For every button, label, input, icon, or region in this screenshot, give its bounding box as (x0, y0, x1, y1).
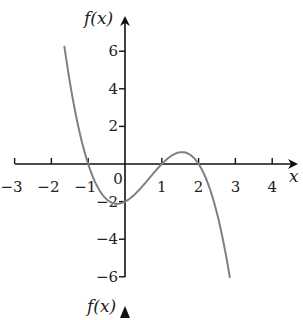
bottom-arrow-icon (120, 306, 130, 318)
x-tick-label: −2 (37, 178, 59, 196)
x-tick-label: −1 (74, 178, 96, 196)
x-tick-label: 1 (157, 178, 167, 196)
x-tick-label: 0 (113, 170, 123, 188)
y-tick-label: −2 (96, 193, 118, 211)
y-tick-label: −4 (96, 230, 118, 248)
y-tick-label: 2 (108, 117, 118, 135)
x-tick-label: 4 (267, 178, 277, 196)
cubic-function-graph: −3−2−101234 642−2−4−6 f(x) x f(x) (0, 0, 303, 320)
x-tick-label: −3 (1, 178, 23, 196)
function-curve (64, 46, 230, 278)
x-tick-label: 3 (231, 178, 241, 196)
x-tick-label: 2 (194, 178, 204, 196)
y-tick-label: −6 (96, 268, 118, 286)
y-axis-title: f(x) (82, 8, 113, 28)
y-tick-label: 6 (108, 42, 118, 60)
x-axis-title: x (289, 166, 299, 186)
y-tick-label: 4 (108, 80, 118, 98)
bottom-axis-title: f(x) (85, 296, 116, 316)
